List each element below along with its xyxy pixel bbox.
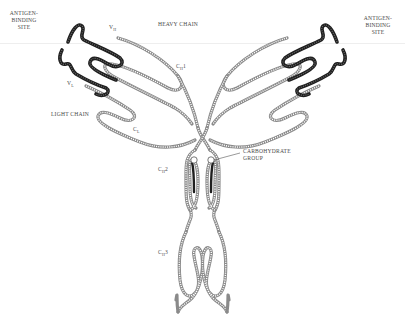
label-line: CARBOHYDRATE (243, 148, 291, 155)
antigen-binding-site-left-label: ANTIGEN- BINDING SITE (2, 10, 46, 31)
right-fab-variable (283, 25, 345, 95)
label-line: SITE (356, 29, 400, 36)
label-line: ANTIGEN- (356, 15, 400, 22)
ch3-label: CH3 (158, 249, 168, 258)
ch2-label: CH2 (158, 166, 168, 175)
label-suffix: 1 (183, 63, 186, 69)
label-line: ANTIGEN- (2, 10, 46, 17)
label-line: BINDING (2, 17, 46, 24)
carbohydrate-left (191, 157, 197, 163)
vh-label: VH (109, 24, 116, 33)
label-line: SITE (2, 24, 46, 31)
label-sub: L (71, 83, 74, 88)
light-chain-label: LIGHT CHAIN (51, 111, 89, 118)
label-suffix: 3 (165, 249, 168, 255)
right-fab-constant (207, 38, 319, 147)
antigen-binding-site-right-label: ANTIGEN- BINDING SITE (356, 15, 400, 36)
antibody-illustration (0, 0, 405, 324)
cl-label: CL (133, 126, 140, 135)
antibody-diagram: ANTIGEN- BINDING SITE ANTIGEN- BINDING S… (0, 0, 405, 324)
fc-ch2 (186, 150, 240, 232)
fc-ch3 (176, 232, 229, 312)
carbohydrate-group-label: CARBOHYDRATE GROUP (243, 148, 291, 162)
hinge-region (195, 128, 210, 150)
label-line: GROUP (243, 155, 291, 162)
heavy-chain-label: HEAVY CHAIN (158, 21, 198, 28)
label-sub: L (137, 129, 140, 134)
left-fab-constant (86, 38, 198, 147)
ch1-label: CH1 (176, 63, 186, 72)
carbohydrate-right (208, 157, 214, 163)
label-line: BINDING (356, 22, 400, 29)
vl-label: VL (67, 80, 74, 89)
label-sub: H (113, 27, 116, 32)
label-suffix: 2 (165, 166, 168, 172)
